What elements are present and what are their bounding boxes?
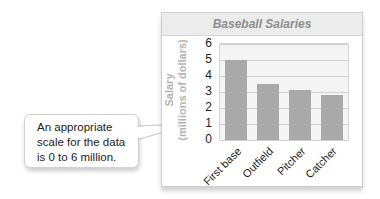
y-axis-label-line: (millions of dollars) (176, 39, 189, 140)
y-tick-label: 1 (198, 116, 212, 130)
y-tick-label: 6 (198, 36, 212, 50)
y-tick-label: 0 (198, 132, 212, 146)
bar-first-base (225, 60, 247, 140)
bar-catcher (321, 95, 343, 140)
plot-area (219, 43, 349, 141)
bar-outfield (257, 84, 279, 140)
bar-pitcher (289, 90, 311, 140)
y-axis-label-line: Salary (163, 39, 176, 140)
y-tick-label: 2 (198, 100, 212, 114)
y-tick-label: 3 (198, 84, 212, 98)
y-tick-label: 5 (198, 52, 212, 66)
y-tick-label: 4 (198, 68, 212, 82)
gridline (220, 44, 348, 45)
chart-title: Baseball Salaries (162, 13, 362, 36)
gridline (220, 140, 348, 141)
